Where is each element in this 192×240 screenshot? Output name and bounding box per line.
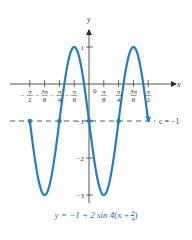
intersection-point xyxy=(87,119,91,123)
x-tick-label: π2− xyxy=(21,88,33,104)
equation-caption: y = −1 + 2 sin 4(x + π4) xyxy=(0,209,192,222)
curve-end-arrow xyxy=(145,116,151,123)
y-tick-label: 1 xyxy=(81,44,85,52)
origin-label: 0 xyxy=(93,87,97,95)
svg-text:−: − xyxy=(65,92,69,100)
caption-close: ) xyxy=(134,210,137,220)
caption-lhs: y = −1 + 2 sin 4 xyxy=(55,210,115,220)
svg-text:π: π xyxy=(117,88,121,96)
svg-text:π: π xyxy=(146,88,150,96)
midline-dashed: c = −1 xyxy=(10,117,180,126)
intersection-point xyxy=(57,119,61,123)
svg-text:8: 8 xyxy=(72,96,76,104)
svg-text:4: 4 xyxy=(58,96,62,104)
caption-open: (x + xyxy=(114,210,131,220)
svg-text:2: 2 xyxy=(146,96,150,104)
intersection-point xyxy=(28,119,32,123)
x-tick-label: π4− xyxy=(50,88,62,104)
x-tick-label: π2 xyxy=(145,88,151,104)
svg-text:2: 2 xyxy=(28,96,32,104)
y-axis-label: y xyxy=(86,15,91,24)
x-tick-label: 3π8 xyxy=(129,88,138,104)
svg-text:3π: 3π xyxy=(129,88,138,96)
x-tick-label: π8− xyxy=(65,88,77,104)
svg-text:π: π xyxy=(72,88,76,96)
svg-text:8: 8 xyxy=(102,96,106,104)
x-axis-label: x xyxy=(176,80,181,89)
sine-graph: c = −1 π2−3π8−π4−π8−π8π43π8π201−1−2−3xy xyxy=(0,0,192,240)
svg-text:8: 8 xyxy=(43,96,47,104)
svg-text:8: 8 xyxy=(132,96,136,104)
x-tick-label: π8 xyxy=(101,88,107,104)
svg-text:−: − xyxy=(36,92,40,100)
svg-text:3π: 3π xyxy=(40,88,49,96)
svg-text:π: π xyxy=(102,88,106,96)
svg-text:−: − xyxy=(21,92,25,100)
midline-label: c = −1 xyxy=(159,117,180,126)
x-tick-label: 3π8− xyxy=(36,88,49,104)
y-tick-label: −3 xyxy=(77,192,85,200)
svg-text:4: 4 xyxy=(117,96,121,104)
y-tick-label: −1 xyxy=(77,118,85,126)
svg-text:π: π xyxy=(28,88,32,96)
svg-text:−: − xyxy=(50,92,54,100)
axes xyxy=(10,30,176,203)
intersection-point xyxy=(116,119,120,123)
svg-text:π: π xyxy=(58,88,62,96)
y-tick-label: −2 xyxy=(77,155,85,163)
axis-labels: π2−3π8−π4−π8−π8π43π8π201−1−2−3xy xyxy=(21,15,181,200)
